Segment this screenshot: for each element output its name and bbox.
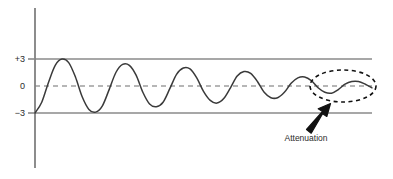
axis-label-minus3: −3 bbox=[15, 108, 25, 118]
axis-label-plus3: +3 bbox=[15, 54, 25, 64]
attenuation-figure: +3 0 −3 Attenuation bbox=[0, 0, 393, 179]
waveform-chart-svg: +3 0 −3 Attenuation bbox=[0, 0, 393, 179]
axis-label-zero: 0 bbox=[20, 81, 25, 91]
chart-background bbox=[0, 0, 393, 179]
attenuation-label: Attenuation bbox=[284, 133, 327, 143]
